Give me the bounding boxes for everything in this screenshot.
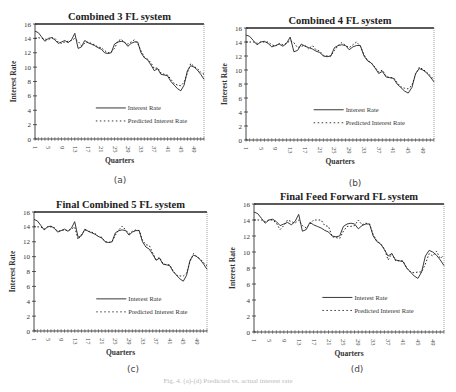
chart-panel-d: Final Feed Forward FL system024681012141… bbox=[0, 0, 456, 392]
x-tick-label: 21 bbox=[326, 339, 333, 346]
x-tick-label: 25 bbox=[340, 339, 347, 346]
y-tick-label: 6 bbox=[247, 281, 251, 289]
y-tick-label: 14 bbox=[243, 217, 251, 225]
x-tick-label: 29 bbox=[355, 339, 362, 346]
legend-label: Interest Rate bbox=[354, 294, 387, 301]
y-axis-label: Interest Rate bbox=[228, 246, 237, 288]
x-tick-label: 13 bbox=[296, 339, 303, 346]
y-tick-label: 8 bbox=[247, 265, 251, 273]
y-tick-label: 16 bbox=[243, 201, 251, 209]
x-tick-label: 45 bbox=[415, 339, 422, 346]
x-tick-label: 41 bbox=[400, 339, 407, 346]
x-axis-label: Quarters bbox=[334, 349, 363, 358]
y-tick-label: 0 bbox=[247, 329, 251, 337]
x-tick-label: 33 bbox=[370, 339, 377, 346]
chart-title: Final Feed Forward FL system bbox=[280, 191, 418, 202]
series-actual bbox=[254, 212, 444, 278]
legend-label: Predicted Interest Rate bbox=[354, 307, 413, 314]
y-tick-label: 4 bbox=[247, 297, 251, 305]
y-tick-label: 12 bbox=[243, 233, 251, 241]
y-tick-label: 2 bbox=[247, 313, 251, 321]
x-tick-label: 37 bbox=[385, 339, 392, 346]
series-predicted bbox=[254, 220, 444, 273]
line-chart: Final Feed Forward FL system024681012141… bbox=[0, 0, 456, 392]
panel-label: (d) bbox=[342, 364, 372, 374]
x-tick-label: 9 bbox=[281, 339, 288, 342]
y-tick-label: 10 bbox=[243, 249, 251, 257]
x-tick-label: 1 bbox=[251, 339, 258, 342]
x-tick-label: 17 bbox=[311, 339, 318, 346]
x-tick-label: 5 bbox=[266, 339, 273, 342]
figure-caption: Fig. 4. (a)-(d) Predicted vs. actual int… bbox=[0, 377, 456, 385]
x-tick-label: 49 bbox=[430, 339, 437, 346]
